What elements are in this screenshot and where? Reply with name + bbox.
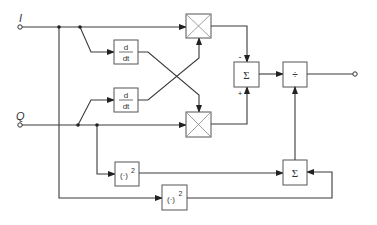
square-block-i: (·) 2 xyxy=(162,185,187,210)
wire-q-to-deriv xyxy=(78,100,114,125)
multiplier-block-2 xyxy=(186,112,211,137)
square-i-base: (·) xyxy=(167,195,175,204)
sum1-symbol: Σ xyxy=(243,69,249,81)
sum1-plus-sign: + xyxy=(238,89,243,98)
square-q-base: (·) xyxy=(120,171,128,180)
wire-mult1-to-sum1 xyxy=(211,26,247,62)
input-q-terminal xyxy=(18,123,22,127)
sum1-minus-sign: - xyxy=(239,52,242,62)
wire-i-to-square xyxy=(59,27,162,198)
deriv-q-den: dt xyxy=(123,102,130,111)
junction-dot xyxy=(76,123,80,127)
sum2-symbol: Σ xyxy=(292,167,298,179)
block-diagram: I Q d dt d dt xyxy=(0,0,377,225)
wire-q-to-square xyxy=(97,125,115,174)
wire-i-to-deriv xyxy=(80,27,114,52)
input-i-label: I xyxy=(19,12,22,24)
junction-dot xyxy=(95,123,99,127)
derivative-block-i: d dt xyxy=(114,40,138,64)
deriv-i-num: d xyxy=(124,43,128,52)
wire-deriv-i-to-mult2 xyxy=(138,52,199,112)
multiplier-block-1 xyxy=(186,14,211,38)
square-block-q: (·) 2 xyxy=(115,162,139,186)
square-q-exp: 2 xyxy=(131,167,135,174)
summer-block-2: Σ xyxy=(283,160,307,185)
output-terminal xyxy=(353,72,357,76)
junction-dot xyxy=(78,25,82,29)
divider-block: ÷ xyxy=(283,62,307,87)
deriv-i-den: dt xyxy=(123,54,130,63)
junction-dot xyxy=(57,25,61,29)
derivative-block-q: d dt xyxy=(114,88,138,112)
square-i-exp: 2 xyxy=(179,190,183,197)
deriv-q-num: d xyxy=(124,91,128,100)
input-q-label: Q xyxy=(16,110,25,122)
input-i: I xyxy=(18,12,22,29)
divide-symbol: ÷ xyxy=(292,69,298,80)
input-i-terminal xyxy=(18,25,22,29)
wire-square-i-to-sum2 xyxy=(187,172,332,198)
